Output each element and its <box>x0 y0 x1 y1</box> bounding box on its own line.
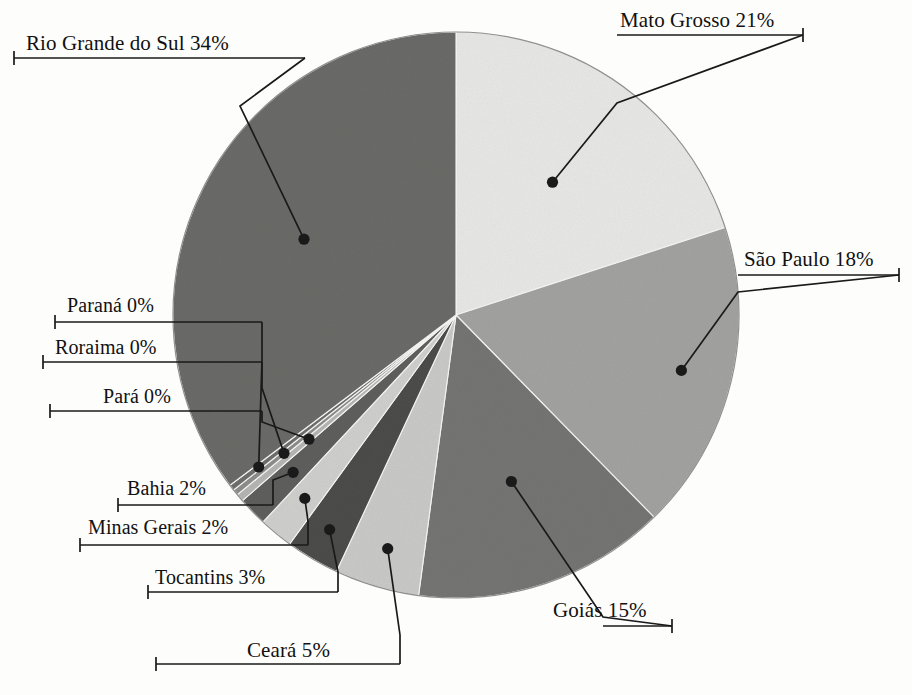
label-goias: Goiás 15% <box>553 600 647 621</box>
label-mato-grosso: Mato Grosso 21% <box>620 10 774 31</box>
leader-anchor-dot <box>506 476 517 487</box>
leader-anchor-dot <box>676 365 687 376</box>
label-minas-gerais: Minas Gerais 2% <box>88 517 228 537</box>
leader-anchor-dot <box>547 177 558 188</box>
pie-slices-group <box>173 32 739 598</box>
label-bahia: Bahia 2% <box>127 478 206 498</box>
label-ceara: Ceará 5% <box>247 640 330 661</box>
leader-anchor-dot <box>299 493 310 504</box>
leader-anchor-dot <box>382 543 393 554</box>
leader-anchor-dot <box>298 234 309 245</box>
pie-chart-figure: Rio Grande do Sul 34% Mato Grosso 21% Sã… <box>0 0 912 695</box>
leader-anchor-dot <box>253 461 264 472</box>
label-tocantins: Tocantins 3% <box>155 567 265 587</box>
leader-anchor-dot <box>303 434 314 445</box>
label-roraima: Roraima 0% <box>55 337 157 357</box>
leader-anchor-dot <box>288 467 299 478</box>
label-para: Pará 0% <box>103 386 171 406</box>
leader-anchor-dot <box>278 448 289 459</box>
label-rio-grande-do-sul: Rio Grande do Sul 34% <box>26 33 229 54</box>
label-parana: Paraná 0% <box>67 295 154 315</box>
label-sao-paulo: São Paulo 18% <box>744 249 874 270</box>
leader-anchor-dot <box>324 524 335 535</box>
